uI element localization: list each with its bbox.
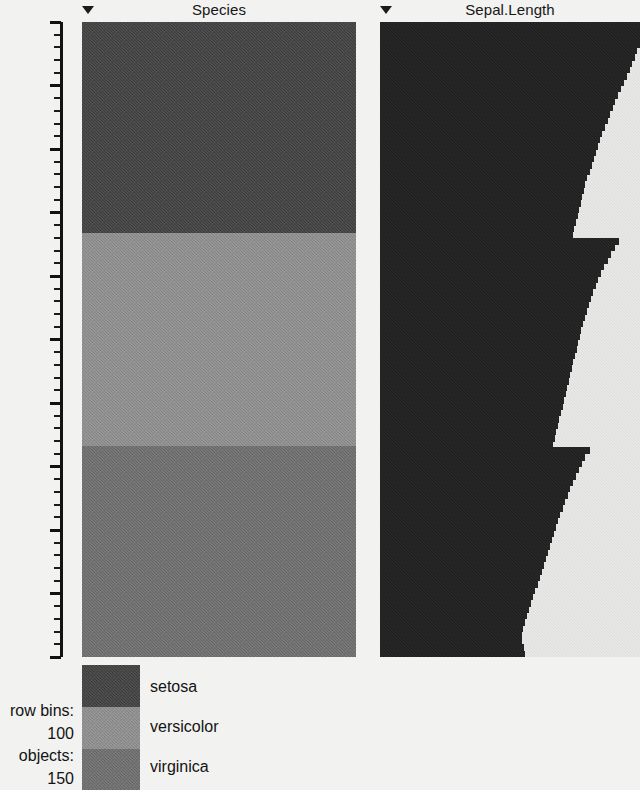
axis-tick-minor bbox=[54, 250, 61, 252]
axis-tick-minor bbox=[54, 453, 61, 455]
axis-tick-minor bbox=[54, 186, 61, 188]
column-header-sepal-length[interactable]: Sepal.Length bbox=[380, 0, 640, 22]
axis-tick-minor bbox=[54, 580, 61, 582]
axis-tick-major bbox=[50, 275, 61, 278]
axis-tick-minor bbox=[54, 491, 61, 493]
legend-label-versicolor: versicolor bbox=[150, 718, 218, 736]
stats-block: row bins: 100 objects: 150 bbox=[0, 700, 74, 790]
legend-swatch-virginica bbox=[82, 748, 140, 790]
axis-tick-minor bbox=[54, 605, 61, 607]
axis-tick-major bbox=[50, 148, 61, 151]
legend-label-virginica: virginica bbox=[150, 758, 209, 776]
species-band-versicolor bbox=[82, 233, 356, 446]
axis-tick-minor bbox=[54, 478, 61, 480]
axis-tick-minor bbox=[54, 110, 61, 112]
row-bins-label: row bins: bbox=[0, 700, 74, 723]
column-header-row: SpeciesSepal.Length bbox=[0, 0, 640, 22]
bar-row bbox=[380, 651, 525, 657]
axis-tick-major bbox=[50, 211, 61, 214]
axis-tick-minor bbox=[54, 224, 61, 226]
axis-tick-minor bbox=[54, 262, 61, 264]
axis-tick-major bbox=[50, 465, 61, 468]
objects-label: objects: bbox=[0, 745, 74, 768]
axis-tick-minor bbox=[54, 34, 61, 36]
axis-tick-minor bbox=[54, 313, 61, 315]
axis-tick-minor bbox=[54, 643, 61, 645]
legend-color-swatch bbox=[82, 665, 140, 790]
species-band-setosa bbox=[82, 22, 356, 234]
axis-tick-minor bbox=[54, 46, 61, 48]
axis-tick-minor bbox=[54, 237, 61, 239]
axis-tick-minor bbox=[54, 440, 61, 442]
axis-tick-major bbox=[50, 656, 61, 659]
legend-swatch-setosa bbox=[82, 665, 140, 707]
column-plot-sepal-length[interactable] bbox=[380, 22, 640, 657]
axis-tick-minor bbox=[54, 161, 61, 163]
axis-tick-minor bbox=[54, 288, 61, 290]
row-percent-axis: 0%10%20%30%40%50%60%70%80%90%100% bbox=[0, 0, 78, 680]
axis-tick-minor bbox=[54, 554, 61, 556]
axis-tick-major bbox=[50, 338, 61, 341]
axis-tick-major bbox=[50, 529, 61, 532]
axis-tick-minor bbox=[54, 135, 61, 137]
column-title: Species bbox=[82, 1, 356, 18]
axis-tick-minor bbox=[54, 504, 61, 506]
species-band-virginica bbox=[82, 446, 356, 657]
axis-tick-major bbox=[50, 84, 61, 87]
row-bins-value: 100 bbox=[0, 723, 74, 746]
axis-tick-minor bbox=[54, 427, 61, 429]
axis-tick-minor bbox=[54, 97, 61, 99]
axis-tick-minor bbox=[54, 72, 61, 74]
axis-tick-major bbox=[50, 21, 61, 24]
legend-swatch-versicolor bbox=[82, 707, 140, 749]
axis-tick-minor bbox=[54, 199, 61, 201]
column-plot-species[interactable] bbox=[82, 22, 356, 657]
legend-label-setosa: setosa bbox=[150, 678, 197, 696]
axis-tick-minor bbox=[54, 326, 61, 328]
column-header-species[interactable]: Species bbox=[82, 0, 356, 22]
species-legend: setosaversicolorvirginica bbox=[0, 662, 640, 790]
objects-value: 150 bbox=[0, 768, 74, 790]
axis-tick-minor bbox=[54, 364, 61, 366]
axis-tick-minor bbox=[54, 59, 61, 61]
axis-tick-minor bbox=[54, 173, 61, 175]
column-title: Sepal.Length bbox=[380, 1, 640, 18]
axis-tick-minor bbox=[54, 351, 61, 353]
axis-tick-minor bbox=[54, 377, 61, 379]
axis-tick-major bbox=[50, 592, 61, 595]
axis-tick-minor bbox=[54, 567, 61, 569]
axis-tick-major bbox=[50, 402, 61, 405]
axis-tick-minor bbox=[54, 631, 61, 633]
axis-tick-minor bbox=[54, 389, 61, 391]
axis-tick-minor bbox=[54, 618, 61, 620]
axis-tick-minor bbox=[54, 123, 61, 125]
axis-tick-minor bbox=[54, 415, 61, 417]
axis-tick-minor bbox=[54, 542, 61, 544]
axis-tick-minor bbox=[54, 516, 61, 518]
axis-tick-minor bbox=[54, 300, 61, 302]
